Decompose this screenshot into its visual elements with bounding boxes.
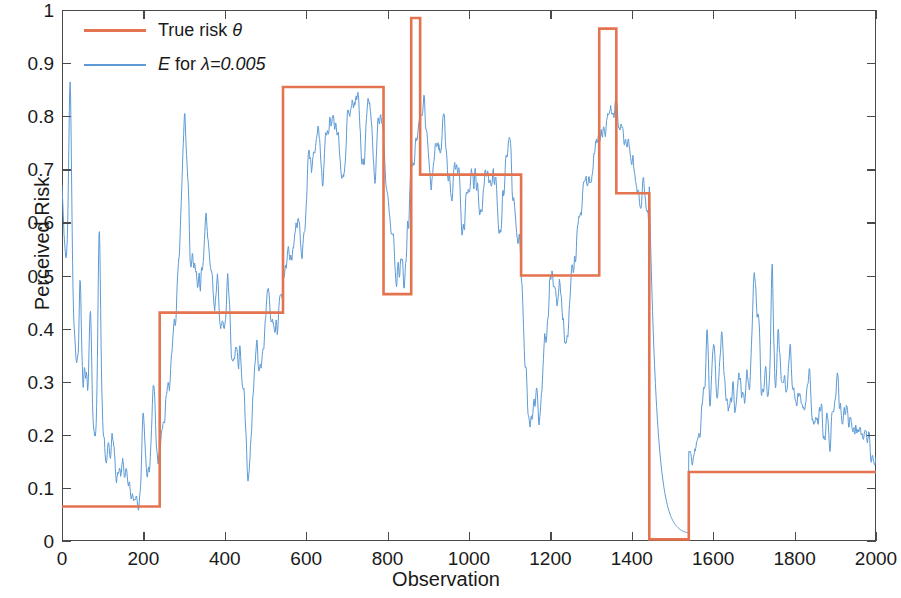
x-tick-mark: [550, 532, 551, 541]
legend-swatch-true-risk: [84, 29, 146, 32]
x-axis-title: Observation: [0, 568, 892, 591]
x-tick-mark: [306, 532, 307, 541]
y-tick-mark: [867, 63, 876, 64]
legend-swatch-ewma: [84, 64, 146, 66]
legend-entry-true-risk: True risk θ: [76, 18, 291, 42]
x-tick-mark: [632, 532, 633, 541]
y-tick-mark: [62, 382, 71, 383]
y-tick-label: 0.1: [4, 479, 54, 498]
y-tick-mark: [62, 169, 71, 170]
chart-canvas: [62, 10, 876, 541]
legend-label-true-risk: True risk θ: [158, 18, 242, 42]
y-tick-mark: [867, 276, 876, 277]
y-axis-title: Perceived Risk: [31, 144, 54, 344]
x-tick-mark: [469, 10, 470, 19]
y-tick-label: 0.3: [4, 373, 54, 392]
x-tick-label: 1600: [673, 549, 753, 568]
y-tick-mark: [62, 488, 71, 489]
x-tick-mark: [388, 532, 389, 541]
x-tick-label: 200: [103, 549, 183, 568]
x-tick-mark: [550, 10, 551, 19]
x-tick-label: 400: [185, 549, 265, 568]
y-tick-mark: [867, 10, 876, 11]
y-tick-mark: [867, 222, 876, 223]
x-tick-mark: [388, 10, 389, 19]
x-tick-mark: [795, 532, 796, 541]
legend-label-ewma: E E forfor λ=0.005: [158, 52, 265, 76]
y-tick-mark: [867, 116, 876, 117]
y-tick-label: 0.8: [4, 107, 54, 126]
y-tick-mark: [62, 10, 71, 11]
x-tick-label: 600: [266, 549, 346, 568]
y-tick-mark: [867, 488, 876, 489]
x-tick-mark: [713, 532, 714, 541]
x-tick-mark: [876, 10, 877, 19]
ewma-line: [62, 82, 876, 533]
y-tick-mark: [62, 116, 71, 117]
y-tick-mark: [62, 541, 71, 542]
y-tick-mark: [867, 541, 876, 542]
legend-entry-ewma: E E forfor λ=0.005: [76, 52, 291, 76]
y-tick-mark: [62, 435, 71, 436]
y-tick-mark: [867, 382, 876, 383]
x-tick-mark: [143, 532, 144, 541]
x-tick-mark: [632, 10, 633, 19]
y-tick-mark: [62, 63, 71, 64]
y-tick-mark: [867, 169, 876, 170]
x-tick-label: 800: [348, 549, 428, 568]
x-tick-mark: [62, 532, 63, 541]
x-tick-mark: [876, 532, 877, 541]
x-tick-mark: [469, 532, 470, 541]
x-tick-mark: [713, 10, 714, 19]
x-tick-mark: [225, 532, 226, 541]
y-tick-mark: [867, 329, 876, 330]
x-tick-label: 1800: [755, 549, 835, 568]
y-tick-label: 0.2: [4, 426, 54, 445]
x-tick-mark: [62, 10, 63, 19]
x-tick-mark: [795, 10, 796, 19]
x-tick-label: 2000: [836, 549, 901, 568]
x-tick-mark: [306, 10, 307, 19]
y-tick-label: 1: [4, 1, 54, 20]
chart-legend: True risk θ E E forfor λ=0.005: [76, 16, 291, 78]
y-tick-mark: [62, 329, 71, 330]
y-tick-mark: [62, 222, 71, 223]
x-tick-label: 1400: [592, 549, 672, 568]
y-tick-label: 0.9: [4, 54, 54, 73]
x-tick-label: 0: [22, 549, 102, 568]
x-tick-label: 1000: [429, 549, 509, 568]
y-tick-mark: [867, 435, 876, 436]
x-tick-label: 1200: [510, 549, 590, 568]
ewma-series-group: [62, 82, 876, 533]
y-tick-mark: [62, 276, 71, 277]
